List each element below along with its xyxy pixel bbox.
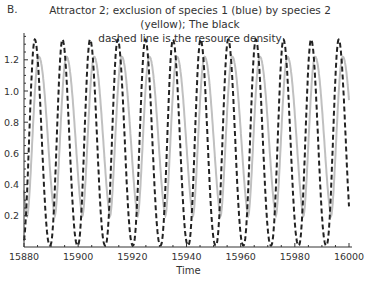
plot-lines <box>24 40 349 246</box>
x-tick-label: 15960 <box>226 251 256 262</box>
x-tick-label: 15940 <box>171 251 201 262</box>
y-tick-label: 0.8 <box>4 117 19 128</box>
x-axis-title: Time <box>175 265 200 276</box>
line-chart: 158801590015920159401596015980160000.20.… <box>0 0 371 281</box>
y-tick-label: 0.2 <box>4 210 19 221</box>
y-tick-label: 1.2 <box>4 54 19 65</box>
x-tick-label: 15900 <box>63 251 93 262</box>
x-tick-label: 15980 <box>280 251 310 262</box>
x-tick-label: 15880 <box>9 251 39 262</box>
x-tick-label: 15920 <box>117 251 147 262</box>
y-tick-label: 0.4 <box>4 179 19 190</box>
y-tick-label: 1.0 <box>4 86 19 97</box>
x-tick-label: 16000 <box>334 251 364 262</box>
y-tick-label: 0.6 <box>4 148 19 159</box>
axes: 158801590015920159401596015980160000.20.… <box>4 33 364 276</box>
